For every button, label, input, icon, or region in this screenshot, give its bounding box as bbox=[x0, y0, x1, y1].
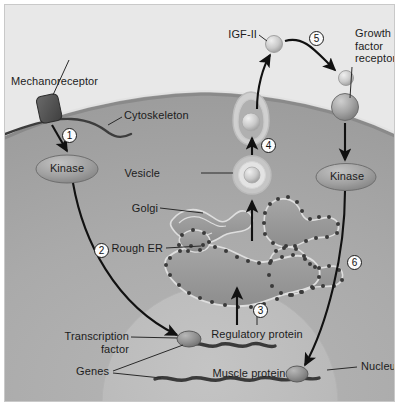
label-muscle-protein: Muscle protein bbox=[201, 367, 297, 380]
step-badge-4: 4 bbox=[261, 138, 276, 153]
label-kinase-right: Kinase bbox=[320, 170, 374, 183]
step-badge-6: 6 bbox=[347, 255, 362, 270]
label-golgi: Golgi bbox=[105, 202, 158, 215]
label-transcription-factor: Transcription factor bbox=[55, 330, 129, 355]
step-badge-5: 5 bbox=[309, 31, 324, 46]
igf2-molecule bbox=[266, 36, 283, 53]
step-badge-2: 2 bbox=[94, 243, 109, 258]
label-vesicle: Vesicle bbox=[115, 167, 160, 180]
label-igf2: IGF-II bbox=[207, 28, 257, 41]
label-regulatory-protein: Regulatory protein bbox=[201, 328, 313, 341]
exocytosis-vesicle bbox=[233, 92, 269, 145]
step-badge-3: 3 bbox=[253, 303, 268, 318]
label-genes: Genes bbox=[63, 365, 109, 378]
step-badge-1: 1 bbox=[62, 128, 77, 143]
gene-strand-regulatory bbox=[190, 343, 275, 346]
label-cytoskeleton: Cytoskeleton bbox=[124, 109, 189, 122]
figure-root: Mechanoreceptor Cytoskeleton Kinase Kina… bbox=[0, 0, 399, 406]
label-nucleus: Nucleus bbox=[361, 360, 395, 373]
figure-frame: Mechanoreceptor Cytoskeleton Kinase Kina… bbox=[4, 4, 395, 402]
label-mechanoreceptor: Mechanoreceptor bbox=[11, 75, 98, 88]
label-kinase-left: Kinase bbox=[40, 162, 94, 175]
transcription-factor-shape bbox=[177, 331, 201, 347]
label-growth-factor-receptor: Growth factor receptor bbox=[355, 27, 395, 65]
vesicle-shape bbox=[233, 156, 271, 194]
growth-factor-receptor-shape bbox=[332, 94, 359, 121]
